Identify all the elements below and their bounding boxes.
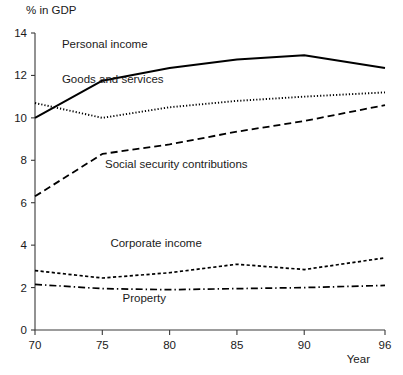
x-tick-label: 96 — [379, 339, 392, 351]
x-tick-label: 75 — [96, 339, 109, 351]
series-label-goods-and-services: Goods and services — [62, 73, 164, 85]
x-tick-label: 80 — [163, 339, 176, 351]
x-tick-label: 85 — [231, 339, 244, 351]
series-labels: Personal incomeGoods and servicesSocial … — [62, 38, 248, 305]
y-tick-label: 6 — [21, 197, 27, 209]
series-label-property: Property — [123, 292, 167, 304]
series-line-social-security-contributions — [35, 105, 385, 196]
series-label-social-security-contributions: Social security contributions — [105, 158, 248, 170]
series-line-goods-and-services — [35, 92, 385, 117]
y-tick-label: 10 — [14, 112, 27, 124]
series-line-property — [35, 284, 385, 289]
y-tick-label: 14 — [14, 27, 27, 39]
y-tick-label: 2 — [21, 282, 27, 294]
gdp-line-chart: % in GDP 02468101214 707580859096 Person… — [0, 0, 403, 375]
x-tick-label: 90 — [298, 339, 311, 351]
x-axis-ticks: 707580859096 — [29, 330, 392, 351]
chart-container: % in GDP 02468101214 707580859096 Person… — [0, 0, 403, 375]
x-axis-caption: Year — [347, 353, 370, 365]
series-label-personal-income: Personal income — [62, 38, 148, 50]
y-axis-ticks: 02468101214 — [14, 27, 35, 336]
y-tick-label: 0 — [21, 324, 27, 336]
y-tick-label: 8 — [21, 154, 27, 166]
series-label-corporate-income: Corporate income — [110, 237, 201, 249]
series-lines — [35, 55, 385, 289]
y-tick-label: 4 — [21, 239, 28, 251]
y-tick-label: 12 — [14, 69, 27, 81]
y-axis-caption: % in GDP — [26, 4, 77, 16]
series-line-corporate-income — [35, 258, 385, 278]
series-line-personal-income — [35, 55, 385, 118]
x-tick-label: 70 — [29, 339, 42, 351]
